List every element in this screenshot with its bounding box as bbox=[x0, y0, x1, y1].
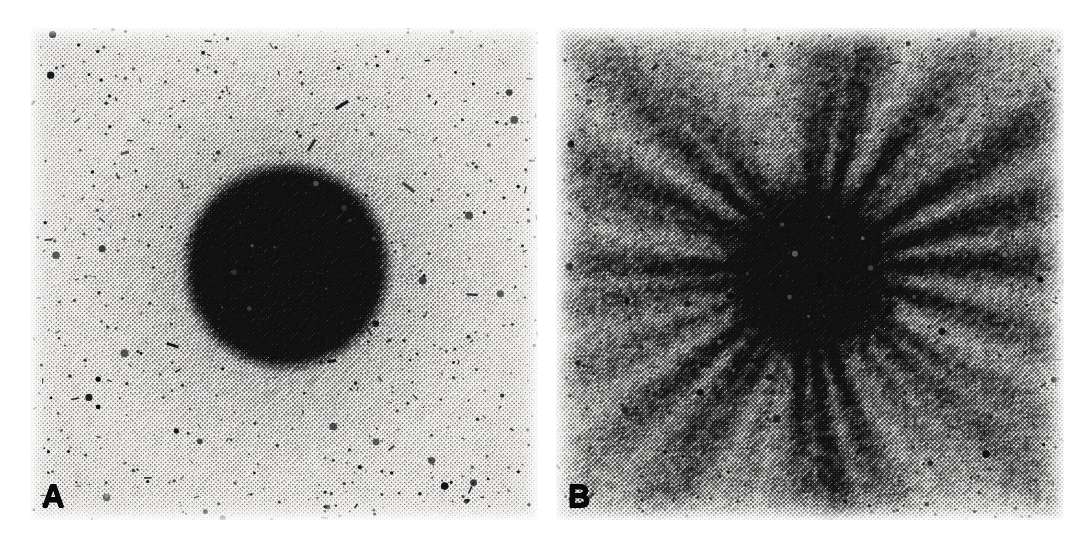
panel-b-image bbox=[556, 28, 1064, 520]
figure-root: A B bbox=[0, 0, 1091, 541]
panel-label-b: B bbox=[568, 481, 590, 512]
panel-a-image bbox=[30, 28, 538, 520]
panel-b bbox=[556, 28, 1064, 520]
panel-label-a: A bbox=[42, 481, 64, 512]
panel-a bbox=[30, 28, 538, 520]
